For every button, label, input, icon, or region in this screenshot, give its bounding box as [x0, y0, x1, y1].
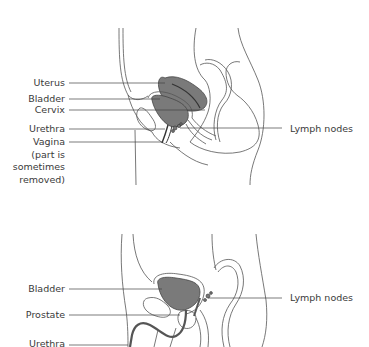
vagina-label: Vagina (part is sometimes removed): [8, 136, 65, 186]
bladder-shape-male: [158, 277, 200, 310]
vagina-label-line4: removed): [8, 174, 65, 187]
lymph-nodes-shape-male: [204, 292, 213, 302]
urethra-label-male: Urethra: [8, 338, 65, 347]
prostate-label: Prostate: [8, 309, 65, 320]
bladder-label: Bladder: [8, 93, 65, 104]
urethra-shape: [130, 310, 186, 347]
vagina-label-line1: Vagina: [8, 136, 65, 149]
male-pelvis-illustration: [0, 200, 369, 347]
lymph-nodes-label: Lymph nodes: [290, 123, 353, 134]
vagina-label-line2: (part is: [8, 149, 65, 162]
uterus-label: Uterus: [8, 77, 65, 88]
vagina-label-line3: sometimes: [8, 161, 65, 174]
cervix-label: Cervix: [8, 104, 65, 115]
bladder-label-male: Bladder: [8, 283, 65, 294]
lymph-nodes-label-male: Lymph nodes: [290, 292, 353, 303]
urethra-label: Urethra: [8, 123, 65, 134]
